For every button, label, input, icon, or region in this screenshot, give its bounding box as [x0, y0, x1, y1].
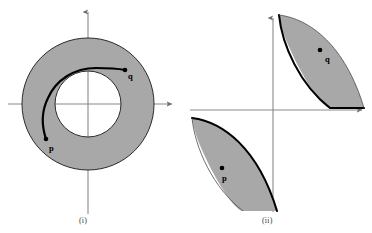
panel-i-point-q-label: q [128, 71, 133, 81]
figure-canvas: p q p q (i) (ii) [0, 0, 372, 233]
panel-ii-point-p [220, 166, 225, 171]
panel-ii-point-p-label: p [222, 173, 227, 183]
panel-i-point-p-label: p [49, 143, 54, 153]
panel-i-caption: (i) [79, 216, 87, 225]
figures-svg [0, 0, 372, 233]
panel-ii-point-q [318, 48, 323, 53]
panel-ii-caption: (ii) [262, 216, 273, 225]
panel-i-point-p [44, 137, 49, 142]
panel-ii-point-q-label: q [325, 54, 330, 64]
panel-i-point-q [123, 68, 128, 73]
